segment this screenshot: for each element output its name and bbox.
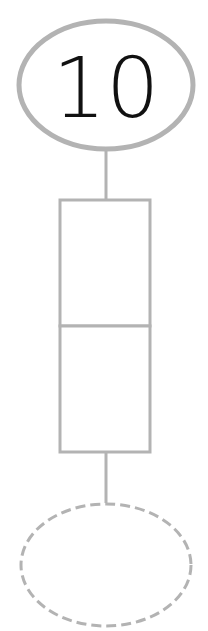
top-node: 10 xyxy=(19,21,193,149)
middle-node-lower-section xyxy=(60,326,150,452)
top-node-label: 10 xyxy=(53,39,160,137)
middle-node xyxy=(60,200,150,452)
bottom-node xyxy=(21,504,191,626)
tree-diagram: 10 xyxy=(0,0,208,631)
middle-node-upper-section xyxy=(60,200,150,326)
